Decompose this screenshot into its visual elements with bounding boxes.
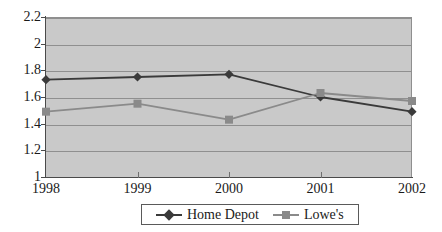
y-axis-tick-label: 1.2 — [0, 143, 41, 157]
y-axis-tick-mark — [41, 17, 46, 18]
x-axis-tick-label: 2001 — [291, 182, 351, 196]
y-axis-tick-label: 2.2 — [0, 10, 41, 24]
x-axis-tick-mark — [321, 172, 322, 178]
x-axis-tick-label: 2002 — [382, 182, 442, 196]
legend-label: Lowe's — [304, 208, 344, 222]
line-chart: 11.21.41.61.822.2 19981999200020012002 H… — [0, 0, 442, 232]
y-axis-tick-label: 2 — [0, 37, 41, 51]
gridline — [46, 98, 411, 99]
x-axis-tick-label: 2000 — [199, 182, 259, 196]
y-axis-tick-mark — [41, 177, 46, 178]
y-axis-tick-mark — [41, 97, 46, 98]
gridline — [46, 45, 411, 46]
x-axis-tick-label: 1999 — [108, 182, 168, 196]
plot-area — [46, 17, 412, 177]
gridline — [46, 71, 411, 72]
gridlines — [46, 18, 411, 177]
legend: Home DepotLowe's — [141, 204, 359, 225]
legend-entry[interactable]: Home Depot — [156, 208, 259, 222]
x-axis-tick-label: 1998 — [16, 182, 76, 196]
x-axis-tick-mark — [138, 172, 139, 178]
legend-label: Home Depot — [187, 208, 259, 222]
y-axis-tick-label: 1.4 — [0, 117, 41, 131]
legend-swatch — [156, 209, 182, 221]
y-axis-tick-mark — [41, 70, 46, 71]
y-axis-tick-mark — [41, 124, 46, 125]
legend-marker-diamond-icon — [163, 209, 174, 220]
y-axis-tick-label: 1.8 — [0, 63, 41, 77]
y-axis-tick-mark — [41, 150, 46, 151]
legend-entry[interactable]: Lowe's — [273, 208, 344, 222]
legend-marker-square-icon — [282, 211, 290, 219]
gridline — [46, 18, 411, 19]
y-axis-tick-label: 1.6 — [0, 90, 41, 104]
y-axis-tick-mark — [41, 44, 46, 45]
x-axis-tick-mark — [229, 172, 230, 178]
legend-swatch — [273, 209, 299, 221]
gridline — [46, 125, 411, 126]
gridline — [46, 151, 411, 152]
